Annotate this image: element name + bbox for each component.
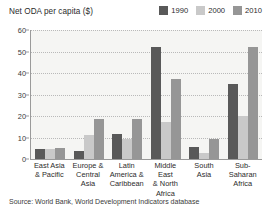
- legend-label: 2000: [208, 6, 225, 15]
- x-axis-label: Sub-SaharanAfrica: [223, 161, 262, 198]
- bar-2010: [209, 139, 219, 159]
- x-axis-label-line: Sub-: [224, 161, 261, 170]
- x-axis-label-line: & North: [147, 179, 184, 188]
- y-tick-label: 40: [18, 69, 26, 78]
- y-tick-mark: [26, 73, 29, 74]
- x-axis-label: LatinAmerica &Caribbean: [107, 161, 146, 198]
- bar-2010: [94, 119, 104, 159]
- x-axis-label: East Asia& Pacific: [30, 161, 69, 198]
- chart-header: Net ODA per capita ($) 199020002010: [0, 6, 267, 24]
- x-axis-label: Middle East& NorthAfrica: [146, 161, 185, 198]
- bar-group: [70, 30, 109, 159]
- x-axis-label-line: Africa: [147, 189, 184, 198]
- chart-legend: 199020002010: [159, 6, 262, 15]
- x-axis-labels: East Asia& PacificEurope &CentralAsiaLat…: [30, 161, 262, 198]
- plot-area: [30, 30, 262, 160]
- y-tick-label: 20: [18, 112, 26, 121]
- bar-2000: [45, 149, 55, 159]
- x-axis-label-line: Europe &: [70, 161, 107, 170]
- y-tick-mark: [26, 159, 29, 160]
- x-axis-label-line: Central: [70, 170, 107, 179]
- bar-2000: [122, 139, 132, 159]
- legend-item-2010: 2010: [233, 6, 262, 15]
- y-tick-mark: [26, 137, 29, 138]
- bar-2010: [171, 79, 181, 159]
- bar-2000: [84, 135, 94, 159]
- bar-1990: [74, 151, 84, 159]
- x-axis-label-line: Latin: [108, 161, 145, 170]
- x-axis-label: Europe &CentralAsia: [69, 161, 108, 198]
- bar-2000: [199, 153, 209, 159]
- x-axis-label-line: Middle East: [147, 161, 184, 179]
- bar-group: [31, 30, 70, 159]
- y-tick-mark: [26, 116, 29, 117]
- bar-1990: [151, 47, 161, 159]
- bar-1990: [112, 134, 122, 159]
- plot-wrapper: 0102030405060 East Asia& PacificEurope &…: [0, 24, 267, 170]
- x-axis-label-line: America &: [108, 170, 145, 179]
- y-tick-label: 50: [18, 47, 26, 56]
- page-title: Net ODA per capita ($): [9, 7, 93, 16]
- bar-2010: [55, 148, 65, 159]
- x-axis-label-line: Caribbean: [108, 179, 145, 188]
- legend-item-1990: 1990: [159, 6, 188, 15]
- y-tick-mark: [26, 30, 29, 31]
- x-axis-label-line: Africa: [224, 179, 261, 188]
- y-tick-mark: [26, 94, 29, 95]
- legend-swatch-2000: [196, 6, 205, 15]
- bars-layer: [31, 30, 262, 159]
- bar-2000: [238, 116, 248, 159]
- bar-2010: [248, 47, 258, 159]
- x-axis-label-line: South: [186, 161, 223, 170]
- x-axis-label-line: Asia: [186, 170, 223, 179]
- y-tick-mark: [26, 51, 29, 52]
- bar-group: [147, 30, 186, 159]
- x-axis-label-line: & Pacific: [31, 170, 68, 179]
- bar-group: [185, 30, 224, 159]
- y-axis-ticks: 0102030405060: [0, 30, 30, 159]
- bar-2000: [161, 122, 171, 159]
- source-note: Source: World Bank, World Development In…: [9, 198, 199, 205]
- legend-swatch-1990: [159, 6, 168, 15]
- x-axis-label-line: Saharan: [224, 170, 261, 179]
- bar-group: [224, 30, 263, 159]
- bar-1990: [35, 149, 45, 159]
- x-axis-label-line: East Asia: [31, 161, 68, 170]
- bar-1990: [189, 147, 199, 159]
- legend-label: 2010: [245, 6, 262, 15]
- legend-label: 1990: [171, 6, 188, 15]
- bar-2010: [132, 119, 142, 159]
- y-tick-label: 10: [18, 133, 26, 142]
- legend-item-2000: 2000: [196, 6, 225, 15]
- x-axis-label: SouthAsia: [185, 161, 224, 198]
- legend-swatch-2010: [233, 6, 242, 15]
- y-tick-label: 60: [18, 26, 26, 35]
- x-axis-label-line: Asia: [70, 179, 107, 188]
- chart-figure: Net ODA per capita ($) 199020002010 0102…: [0, 0, 267, 212]
- bar-group: [108, 30, 147, 159]
- y-tick-label: 30: [18, 90, 26, 99]
- bar-1990: [228, 84, 238, 159]
